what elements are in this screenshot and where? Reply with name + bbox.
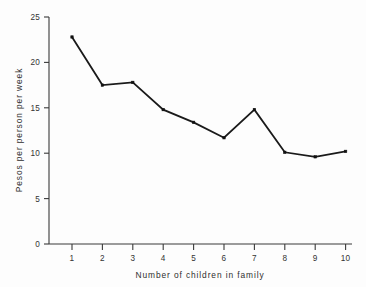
x-tick-label-1: 1 [70,254,75,263]
y-tick-label-15: 15 [30,104,40,113]
y-tick-label-20: 20 [30,58,40,67]
x-tick-label-3: 3 [130,254,135,263]
x-tick-label-5: 5 [191,254,196,263]
y-axis-title: Pesos per person per week [14,68,24,192]
x-tick-label-2: 2 [100,254,105,263]
line-chart: 0 5 10 15 20 25 1 2 3 4 5 6 [0,0,366,287]
data-point-6 [223,137,225,139]
data-series-markers [71,36,347,158]
y-tick-label-5: 5 [35,195,40,204]
x-tick-label-7: 7 [252,254,257,263]
data-point-5 [192,121,194,123]
data-point-10 [344,150,346,152]
data-point-7 [253,108,255,110]
x-axis-ticks [72,244,346,250]
data-point-1 [71,36,73,38]
x-tick-label-8: 8 [282,254,287,263]
x-axis-tick-labels: 1 2 3 4 5 6 7 8 9 10 [70,254,351,263]
chart-container: 0 5 10 15 20 25 1 2 3 4 5 6 [0,0,366,287]
y-tick-label-10: 10 [30,149,40,158]
y-axis-ticks [44,17,49,244]
data-point-4 [162,108,164,110]
data-point-2 [101,84,103,86]
data-point-9 [314,156,316,158]
y-axis-tick-labels: 0 5 10 15 20 25 [30,13,40,249]
data-point-8 [284,151,286,153]
y-tick-label-0: 0 [35,240,40,249]
x-tick-label-9: 9 [313,254,318,263]
y-tick-label-25: 25 [30,13,40,22]
data-point-3 [132,81,134,83]
x-axis-title: Number of children in family [136,270,265,280]
data-series-line [72,37,346,157]
x-tick-label-6: 6 [222,254,227,263]
x-tick-label-4: 4 [161,254,166,263]
x-tick-label-10: 10 [341,254,351,263]
